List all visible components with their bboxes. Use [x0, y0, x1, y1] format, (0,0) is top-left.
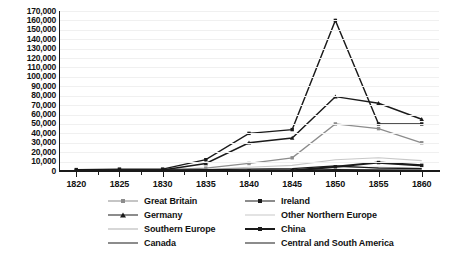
legend-item-label: Other Northern Europe [281, 210, 377, 220]
legend-item-label: Great Britain [144, 196, 197, 206]
gridline [59, 115, 439, 116]
legend-item[interactable]: Other Northern Europe [245, 210, 377, 220]
x-axis-tick-label: 1850 [326, 179, 346, 189]
x-axis-minor-tick [98, 172, 99, 175]
chart-legend: Great BritainIrelandGermanyOther Norther… [0, 196, 452, 252]
x-axis-tick-label: 1820 [66, 179, 86, 189]
x-axis-tick [249, 172, 250, 177]
legend-item[interactable]: China [245, 224, 306, 234]
legend-item[interactable]: Central and South America [245, 238, 394, 248]
legend-item-label: China [281, 224, 306, 234]
y-axis-tick-label: 30,000 [0, 138, 56, 147]
gridline [59, 124, 439, 125]
x-axis-tick [76, 172, 77, 177]
plot-area [59, 11, 439, 171]
x-axis-tick-label: 1845 [282, 179, 302, 189]
legend-item[interactable]: Canada [108, 238, 176, 248]
gridline [59, 143, 439, 144]
immigration-line-chart: 170,000160,000150,000140,000130,000120,0… [0, 0, 452, 255]
x-axis-tick [206, 172, 207, 177]
x-axis-tick [422, 172, 423, 177]
series-lines [59, 11, 439, 171]
x-axis-minor-tick [227, 172, 228, 175]
series-marker [420, 164, 423, 167]
gridline [59, 58, 439, 59]
y-axis-tick-label: 80,000 [0, 91, 56, 100]
y-axis-tick-label: 10,000 [0, 157, 56, 166]
gridline [59, 30, 439, 31]
legend-swatch-icon [108, 238, 138, 248]
x-axis-minor-tick [357, 172, 358, 175]
gridline [59, 133, 439, 134]
legend-swatch-icon [108, 224, 138, 234]
series-marker [377, 127, 380, 130]
legend-swatch-icon [245, 196, 275, 206]
legend-swatch-icon [245, 224, 275, 234]
legend-item-label: Germany [144, 210, 182, 220]
x-axis-tick [119, 172, 120, 177]
x-axis-tick-label: 1825 [110, 179, 130, 189]
x-axis-tick-label: 1840 [239, 179, 259, 189]
x-axis-tick-label: 1860 [412, 179, 432, 189]
x-axis-minor-tick [141, 172, 142, 175]
x-axis-minor-tick [184, 172, 185, 175]
legend-square-marker-icon [258, 199, 262, 203]
x-axis-tick [163, 172, 164, 177]
gridline [59, 11, 439, 12]
legend-swatch-icon [108, 196, 138, 206]
y-axis-labels: 170,000160,000150,000140,000130,000120,0… [0, 0, 56, 180]
series-marker [290, 128, 293, 131]
gridline [59, 162, 439, 163]
y-axis-tick-label: 130,000 [0, 44, 56, 53]
legend-swatch-icon [245, 210, 275, 220]
x-axis-tick [292, 172, 293, 177]
legend-item-label: Southern Europe [144, 224, 216, 234]
x-axis-tick [379, 172, 380, 177]
legend-item-label: Canada [144, 238, 176, 248]
x-axis-tick [335, 172, 336, 177]
legend-item-label: Ireland [281, 196, 310, 206]
legend-item-label: Central and South America [281, 238, 394, 248]
series-marker [290, 156, 293, 159]
y-axis-line [59, 11, 60, 171]
gridline [59, 49, 439, 50]
legend-item[interactable]: Germany [108, 210, 182, 220]
legend-item[interactable]: Great Britain [108, 196, 197, 206]
gridline [59, 67, 439, 68]
gridline [59, 86, 439, 87]
legend-swatch-icon [108, 210, 138, 220]
x-axis-minor-tick [314, 172, 315, 175]
legend-triangle-marker-icon [120, 213, 126, 218]
legend-item[interactable]: Southern Europe [108, 224, 216, 234]
gridline [59, 77, 439, 78]
legend-square-marker-icon [121, 199, 125, 203]
legend-square-marker-icon [258, 227, 262, 231]
y-axis-tick-label: 150,000 [0, 25, 56, 34]
x-axis-tick-label: 1830 [153, 179, 173, 189]
gridline [59, 152, 439, 153]
x-axis-minor-tick [400, 172, 401, 175]
y-axis-tick-label: 0 [0, 167, 56, 176]
x-axis-tick-label: 1835 [196, 179, 216, 189]
legend-item[interactable]: Ireland [245, 196, 310, 206]
x-axis-tick-label: 1855 [369, 179, 389, 189]
x-axis-minor-tick [271, 172, 272, 175]
gridline [59, 39, 439, 40]
gridline [59, 105, 439, 106]
gridline [59, 96, 439, 97]
gridline [59, 20, 439, 21]
legend-swatch-icon [245, 238, 275, 248]
